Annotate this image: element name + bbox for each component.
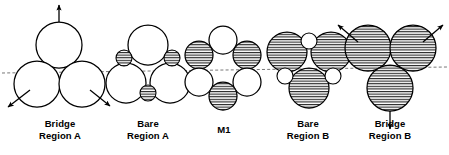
bridge-region-a-large-circle-top (36, 22, 82, 68)
bare-region-a-large-circle-lower-right (150, 63, 190, 103)
bare-region-b-small-circle-top (301, 33, 317, 49)
group-m1 (185, 26, 261, 110)
group-bridge-region-b (345, 25, 436, 111)
m1-circle-top (209, 26, 237, 54)
label-bare-region-a: Bare Region A (104, 118, 192, 141)
label-bridge-region-b: Bridge Region B (346, 118, 434, 141)
group-bridge-region-a (14, 22, 105, 107)
bare-region-a-large-circle-lower-left (106, 63, 146, 103)
label-bridge-region-a: Bridge Region A (16, 118, 104, 141)
packing-diagram-figure: Bridge Region ABare Region AM1Bare Regio… (0, 0, 449, 155)
bare-region-b-small-circle-lower-left (277, 68, 293, 84)
label-m1: M1 (188, 124, 260, 136)
group-bare-region-a (106, 25, 190, 103)
bare-region-a-large-circle-top (128, 25, 168, 65)
m1-circle-lower-left (185, 68, 213, 96)
bare-region-b-small-circle-lower-right (325, 68, 341, 84)
circles-layer (14, 22, 436, 111)
bridge-region-a-large-circle-lower-right (59, 61, 105, 107)
bridge-region-a-large-circle-lower-left (14, 61, 60, 107)
m1-circle-lower-right (233, 68, 261, 96)
label-bare-region-b: Bare Region B (264, 118, 352, 141)
group-bare-region-b (267, 32, 351, 108)
